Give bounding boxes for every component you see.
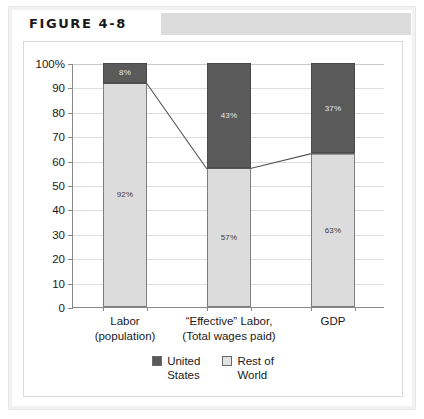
y-axis-label: 60	[52, 156, 65, 168]
figure-frame: FIGURE 4-8 0102030405060708090100% 92%8%…	[8, 6, 416, 410]
legend-swatch-icon	[222, 356, 232, 366]
bar-segment-united-states[interactable]: 43%	[207, 63, 251, 168]
y-axis-label: 70	[52, 131, 65, 143]
y-axis-tick	[68, 162, 73, 163]
x-axis-tick	[251, 307, 252, 311]
legend-label-line: Rest of	[237, 354, 273, 368]
x-axis-label-line: “Effective” Labor,	[182, 314, 275, 329]
y-axis-label: 40	[52, 204, 65, 216]
x-axis-tick	[147, 307, 148, 311]
x-axis-tick	[207, 307, 208, 311]
y-axis-label: 90	[52, 82, 65, 94]
y-axis-label: 20	[52, 253, 65, 265]
y-axis-label: 80	[52, 107, 65, 119]
chart-panel: 0102030405060708090100% 92%8%57%43%63%37…	[23, 41, 403, 397]
bar-segment-rest-of-world[interactable]: 92%	[103, 83, 147, 307]
x-axis-label-line: (Total wages paid)	[182, 329, 275, 344]
bar-segment-value-label: 63%	[325, 226, 342, 235]
legend-swatch-icon	[152, 356, 162, 366]
x-axis-tick	[103, 307, 104, 311]
plot-area: 0102030405060708090100% 92%8%57%43%63%37…	[72, 64, 384, 308]
legend-item[interactable]: Rest ofWorld	[222, 354, 273, 382]
y-axis-tick	[68, 308, 73, 309]
bar-segment-value-label: 57%	[221, 233, 238, 242]
y-axis-tick	[68, 259, 73, 260]
legend-label-line: World	[237, 368, 273, 382]
bar-group[interactable]: 57%43%	[207, 63, 251, 307]
legend-label: UnitedStates	[167, 354, 200, 382]
x-axis-label: GDP	[321, 314, 346, 329]
figure-title: FIGURE 4-8	[29, 16, 127, 31]
x-axis-tick	[311, 307, 312, 311]
legend-label-line: States	[167, 368, 200, 382]
bar-segment-united-states[interactable]: 37%	[311, 63, 355, 153]
bar-segment-value-label: 92%	[117, 190, 134, 199]
chart-legend: UnitedStatesRest ofWorld	[24, 354, 402, 382]
y-axis-label: 10	[52, 278, 65, 290]
x-axis-tick	[355, 307, 356, 311]
bar-segment-rest-of-world[interactable]: 63%	[311, 153, 355, 307]
y-axis-label: 100%	[36, 58, 65, 70]
y-axis-tick	[68, 88, 73, 89]
legend-label-line: United	[167, 354, 200, 368]
legend-item[interactable]: UnitedStates	[152, 354, 200, 382]
bar-segment-united-states[interactable]: 8%	[103, 63, 147, 83]
y-axis-label: 30	[52, 229, 65, 241]
bar-segment-value-label: 8%	[119, 68, 131, 77]
y-axis-tick	[68, 235, 73, 236]
y-axis-tick	[68, 284, 73, 285]
y-axis-tick	[68, 210, 73, 211]
figure-header-band: FIGURE 4-8	[15, 13, 411, 35]
bar-group[interactable]: 63%37%	[311, 63, 355, 307]
bar-group[interactable]: 92%8%	[103, 63, 147, 307]
y-axis-label: 50	[52, 180, 65, 192]
y-axis-label: 0	[59, 302, 65, 314]
x-axis-label: Labor(population)	[95, 314, 156, 344]
x-axis-label: “Effective” Labor,(Total wages paid)	[182, 314, 275, 344]
y-axis-tick	[68, 64, 73, 65]
x-axis-label-line: GDP	[321, 314, 346, 329]
y-axis-tick	[68, 113, 73, 114]
bar-segment-rest-of-world[interactable]: 57%	[207, 168, 251, 307]
x-axis-label-line: Labor	[95, 314, 156, 329]
y-axis-tick	[68, 186, 73, 187]
y-axis-tick	[68, 137, 73, 138]
bar-segment-value-label: 37%	[325, 104, 342, 113]
bar-segment-value-label: 43%	[221, 111, 238, 120]
x-axis-label-line: (population)	[95, 329, 156, 344]
legend-label: Rest ofWorld	[237, 354, 273, 382]
